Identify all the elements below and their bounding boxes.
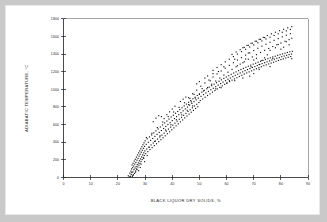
data-point (206, 88, 207, 89)
data-point (179, 119, 180, 120)
data-point (234, 78, 235, 79)
data-point (271, 60, 272, 61)
data-point (219, 77, 220, 78)
data-point (135, 162, 136, 163)
data-point (231, 69, 232, 70)
data-point (136, 166, 137, 167)
data-point (247, 69, 248, 70)
data-point (175, 113, 176, 114)
x-tick-label: 80 (279, 182, 283, 186)
data-point (199, 81, 200, 82)
data-point (207, 87, 208, 88)
y-tick-label: 0 (57, 176, 59, 180)
data-point (187, 111, 188, 112)
data-point (245, 67, 246, 68)
data-point (203, 94, 204, 95)
data-point (189, 105, 190, 106)
data-point (205, 97, 206, 98)
data-point (276, 44, 277, 45)
data-point (215, 86, 216, 87)
data-point (181, 117, 182, 118)
data-point (147, 151, 148, 152)
data-point (154, 136, 155, 137)
data-point (267, 35, 268, 36)
data-point (258, 67, 259, 68)
data-point (214, 90, 215, 91)
data-point (275, 56, 276, 57)
data-point (197, 95, 198, 96)
data-point (280, 42, 281, 43)
data-point (142, 150, 143, 151)
data-point (255, 41, 256, 42)
data-point (211, 85, 212, 86)
data-point (204, 77, 205, 78)
data-point (227, 79, 228, 80)
data-point (208, 79, 209, 80)
data-point (275, 61, 276, 62)
data-point (195, 108, 196, 109)
data-point (253, 44, 254, 45)
data-point (138, 162, 139, 163)
data-point (154, 145, 155, 146)
data-point (286, 30, 287, 31)
data-point (210, 89, 211, 90)
data-point (250, 43, 251, 44)
data-point (183, 115, 184, 116)
x-tick-label: 20 (116, 182, 120, 186)
data-point (249, 71, 250, 72)
data-point (201, 92, 202, 93)
data-point (291, 58, 292, 59)
data-point (274, 35, 275, 36)
data-point (158, 141, 159, 142)
data-point (193, 101, 194, 102)
data-point (202, 88, 203, 89)
data-point (291, 26, 292, 27)
data-point (285, 57, 286, 58)
data-point (245, 49, 246, 50)
data-point (137, 158, 138, 159)
data-point (253, 64, 254, 65)
data-point (158, 115, 159, 116)
data-point (182, 119, 183, 120)
data-point (268, 63, 269, 64)
data-point (136, 169, 137, 170)
data-point (143, 148, 144, 149)
data-point (197, 106, 198, 107)
data-point (168, 129, 169, 130)
data-point (142, 144, 143, 145)
data-point (151, 144, 152, 145)
data-point (178, 107, 179, 108)
data-point (241, 75, 242, 76)
data-point (134, 164, 135, 165)
data-point (215, 80, 216, 81)
data-point (166, 120, 167, 121)
data-point (148, 142, 149, 143)
data-point (194, 105, 195, 106)
data-point (284, 55, 285, 56)
data-point (133, 166, 134, 167)
data-point (156, 134, 157, 135)
data-point (218, 71, 219, 72)
data-point (221, 79, 222, 80)
data-point (269, 42, 270, 43)
data-point (280, 59, 281, 60)
data-point (279, 57, 280, 58)
data-point (157, 138, 158, 139)
x-tick-label: 40 (170, 182, 174, 186)
data-point (253, 69, 254, 70)
data-point (237, 60, 238, 61)
y-tick-label: 600 (53, 123, 59, 127)
data-point (135, 170, 136, 171)
data-point (136, 160, 137, 161)
data-point (284, 53, 285, 54)
data-point (144, 155, 145, 156)
data-point (166, 131, 167, 132)
data-point (277, 55, 278, 56)
data-point (142, 154, 143, 155)
data-point (186, 116, 187, 117)
data-point (282, 53, 283, 54)
data-point (220, 83, 221, 84)
data-point (155, 118, 156, 119)
data-point (231, 54, 232, 55)
data-point (160, 139, 161, 140)
